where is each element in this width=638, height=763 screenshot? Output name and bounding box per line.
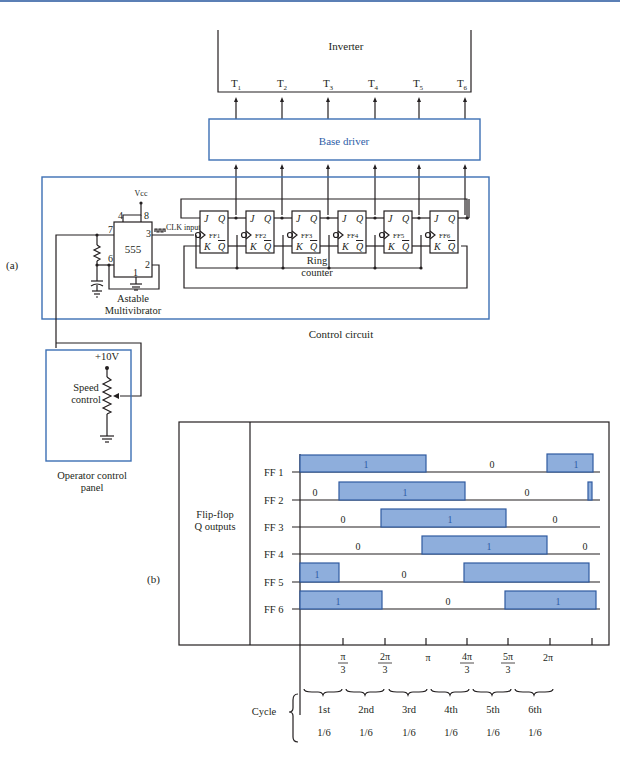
pin-6-label: 6 [108,253,113,264]
svg-text:π: π [340,651,345,662]
svg-text:0: 0 [341,514,346,525]
flip-flop-ff5: J Q FF5 K Q [380,211,413,253]
svg-text:0: 0 [490,459,495,470]
driver-to-inverter-arrows [234,97,467,119]
operator-control-panel: +10V Speed control Operator control pane… [46,343,141,493]
svg-text:FF3: FF3 [301,232,313,240]
svg-text:3rd: 3rd [402,704,417,715]
svg-text:Q: Q [310,241,318,252]
timing-resistor-icon [94,245,100,261]
svg-text:1/6: 1/6 [317,727,330,738]
svg-text:Q: Q [448,213,456,224]
x-axis-tick-labels: π 3 2π 3 π 4π 3 5π 3 2π [338,651,553,675]
ring-to-driver-arrows [234,164,467,215]
flip-flop-ff3: J Q FF3 K Q [288,211,321,253]
flip-flop-ff4: J Q FF4 K Q [334,211,367,253]
base-driver-label: Base driver [319,135,370,147]
timer-chip-label: 555 [125,243,142,255]
clock-pulse-icon [155,229,165,232]
pin-2-label: 2 [145,259,150,270]
control-circuit-label: Control circuit [309,328,373,340]
svg-text:1: 1 [487,541,492,552]
svg-text:3: 3 [506,664,511,675]
svg-text:FF 5: FF 5 [264,577,284,588]
svg-text:Q: Q [218,213,226,224]
pin-7-label: 7 [108,224,113,235]
svg-text:1: 1 [336,596,341,607]
svg-text:1/6: 1/6 [402,727,415,738]
svg-text:0: 0 [313,487,318,498]
svg-text:1/6: 1/6 [528,727,541,738]
svg-text:Q: Q [264,241,272,252]
svg-text:K: K [387,241,396,252]
svg-text:2π: 2π [380,651,390,662]
svg-text:Q: Q [356,241,364,252]
svg-text:Q: Q [356,213,364,224]
ff3-pulses: 0 1 0 [341,509,558,527]
base-driver-block: Base driver [209,119,480,215]
transistor-labels: T1 T2 T3 T4 T5 T6 [231,77,468,92]
svg-text:J: J [296,213,301,224]
ring-counter-label-line2: counter [301,267,333,278]
svg-text:Q: Q [310,213,318,224]
vcc-label: Vcc [135,189,148,198]
timing-side-label-line2: Q outputs [194,521,235,532]
timer-caption-line2: Multivibrator [105,305,162,316]
svg-text:J: J [204,213,209,224]
svg-text:K: K [203,241,212,252]
svg-text:3: 3 [341,664,346,675]
transistor-label-t3: T3 [323,77,334,92]
svg-text:K: K [295,241,304,252]
panel-ground-icon [100,436,114,442]
svg-text:J: J [342,213,347,224]
svg-text:0: 0 [553,514,558,525]
svg-text:Q: Q [218,241,226,252]
ring-counter-label-line1: Ring [307,255,328,266]
cycle-left-brace [289,694,298,742]
speed-potentiometer-icon [103,377,111,414]
inverter-block: Inverter T1 T2 T3 T4 T5 T6 [218,30,471,119]
svg-text:4th: 4th [444,704,458,715]
pin-1-label: 1 [133,267,138,278]
pin-3-label: 3 [146,228,151,239]
svg-text:1st: 1st [318,704,330,715]
panel-caption-line1: Operator control [57,470,127,481]
svg-text:0: 0 [402,569,407,580]
supply-label: +10V [95,351,119,362]
x-axis-ticks [343,638,592,645]
svg-text:Q: Q [448,241,456,252]
svg-text:1: 1 [364,459,369,470]
svg-text:1: 1 [556,596,561,607]
svg-text:FF 4: FF 4 [264,549,284,560]
ff1-pulses: 1 0 1 [300,454,593,472]
svg-text:2π: 2π [543,652,553,663]
part-b-label: (b) [147,573,160,586]
svg-text:1/6: 1/6 [486,727,499,738]
svg-text:5th: 5th [486,704,500,715]
svg-text:K: K [433,241,442,252]
cycle-names: 1st 2nd 3rd 4th 5th 6th [318,704,543,715]
panel-caption-line2: panel [81,482,104,493]
svg-text:FF2: FF2 [255,232,267,240]
svg-text:π: π [425,652,430,663]
cycle-label: Cycle [252,706,277,717]
timing-diagram: (b) Flip-flop Q outputs FF 1 FF 2 FF 3 F… [147,422,609,742]
ff-row-labels: FF 1 FF 2 FF 3 FF 4 FF 5 FF 6 [264,467,284,615]
pin-8-label: 8 [144,210,149,221]
timing-capacitor-icon [91,281,103,297]
svg-text:0: 0 [583,541,588,552]
pot-label-line1: Speed [73,382,99,393]
ff2-pulses: 0 1 0 [313,482,593,500]
pin-4-label: 4 [118,210,123,221]
svg-text:1: 1 [403,487,408,498]
timer-ground-icon [130,277,142,290]
svg-text:0: 0 [356,541,361,552]
flip-flop-ff1: J Q FF1 K Q [196,211,229,253]
cycle-fractions: 1/6 1/6 1/6 1/6 1/6 1/6 [317,727,541,738]
operator-panel-outline [46,350,131,461]
svg-text:FF 2: FF 2 [264,495,284,506]
svg-text:1: 1 [448,514,453,525]
svg-text:2nd: 2nd [358,704,375,715]
wiper-arrow-icon [113,393,119,399]
svg-text:5π: 5π [503,651,513,662]
